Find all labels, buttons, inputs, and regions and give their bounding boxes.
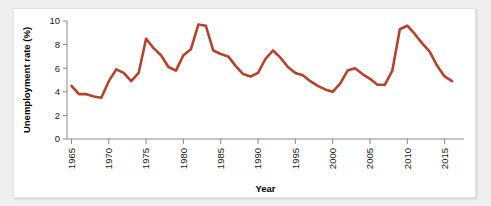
x-tick-label: 1990	[252, 148, 263, 169]
unemployment-rate-line-chart: 0246810 19651970197519801985199019952000…	[14, 9, 477, 199]
y-tick-label: 8	[55, 39, 60, 50]
x-tick-label: 1970	[103, 148, 114, 169]
x-tick-label: 1965	[66, 148, 77, 169]
unemployment-rate-series-line	[71, 25, 452, 98]
chart-plot-area: 0246810 19651970197519801985199019952000…	[14, 9, 477, 199]
x-tick-label: 2010	[402, 148, 413, 169]
x-axis-title: Year	[255, 183, 275, 194]
x-tick-group: 1965197019751980198519901995200020052010…	[66, 139, 450, 169]
y-tick-label: 6	[55, 63, 60, 74]
x-tick-label: 1975	[141, 148, 152, 169]
x-tick-label: 1995	[290, 148, 301, 169]
x-axis-group: 1965197019751980198519901995200020052010…	[66, 139, 464, 169]
y-axis-title: Unemployment rate (%)	[21, 27, 32, 133]
x-tick-label: 1985	[215, 148, 226, 169]
y-tick-label: 4	[55, 86, 60, 97]
x-tick-label: 2015	[439, 148, 450, 169]
x-tick-label: 2005	[364, 148, 375, 169]
y-tick-label: 10	[49, 15, 60, 26]
y-tick-label: 2	[55, 110, 60, 121]
x-tick-label: 2000	[327, 148, 338, 169]
x-tick-label: 1980	[178, 148, 189, 169]
y-axis-group: 0246810	[49, 15, 67, 144]
y-tick-group: 0246810	[49, 15, 67, 144]
y-tick-label: 0	[55, 133, 60, 144]
figure-card: 0246810 19651970197519801985199019952000…	[13, 8, 476, 198]
